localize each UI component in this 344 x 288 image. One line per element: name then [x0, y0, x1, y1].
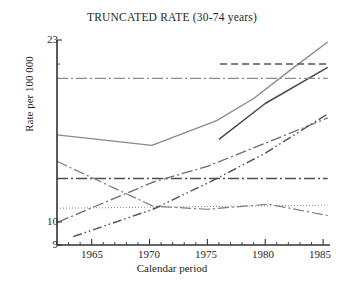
chart-container: TRUNCATED RATE (30-74 years) Rate per 10… — [0, 0, 344, 288]
series-line-descending-dashdot — [57, 161, 328, 215]
series-group — [57, 42, 328, 237]
plot-area — [0, 0, 344, 288]
series-line-ascending-dashdotdot-lower — [73, 114, 328, 237]
ticks-group — [57, 40, 323, 245]
series-line-solid-u-curve — [57, 42, 328, 145]
